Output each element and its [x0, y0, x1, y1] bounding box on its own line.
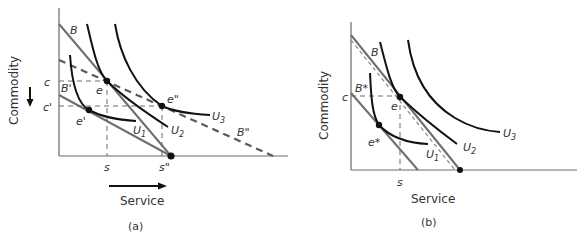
- panel-b-label-e-star: e*: [368, 136, 381, 149]
- panel-b-caption: (b): [421, 216, 437, 229]
- panel-a: B B' B" e e' e" U1 U2 U3 c c' s s" Commo…: [7, 8, 288, 233]
- panel-b-x-axis-title: Service: [411, 192, 455, 206]
- panel-a-caption: (a): [128, 220, 143, 233]
- panel-b-label-U1: U1: [426, 148, 439, 163]
- panel-b-label-U3: U3: [503, 127, 516, 142]
- panel-a-label-U3: U3: [212, 110, 225, 125]
- panel-b-tick-s: s: [397, 176, 403, 189]
- panel-a-label-e: e: [96, 84, 103, 97]
- panel-a-tick-c-prime: c': [43, 101, 52, 114]
- panel-a-point-intercept: [167, 152, 174, 159]
- diagram-canvas: B B' B" e e' e" U1 U2 U3 c c' s s" Commo…: [0, 0, 586, 246]
- panel-a-x-axis-title: Service: [120, 194, 164, 208]
- panel-a-right-arrow-icon: [109, 183, 167, 190]
- panel-a-indifference-curve-U2: [87, 24, 168, 127]
- panel-a-label-B-dprime: B": [237, 126, 250, 139]
- panel-b-y-axis-title: Commodity: [317, 71, 331, 140]
- panel-a-tick-c: c: [44, 76, 50, 89]
- panel-a-label-e-dprime: e": [167, 93, 179, 106]
- panel-b-label-U2: U2: [463, 141, 476, 156]
- panel-b-label-B-star: B*: [355, 82, 369, 95]
- panel-a-point-e-prime: [86, 107, 92, 113]
- panel-a-point-e: [104, 78, 110, 84]
- panel-b: B B* e e* U1 U2 U3 c s Commodity Service…: [317, 22, 577, 229]
- panel-a-indifference-curve-U3: [115, 24, 210, 115]
- panel-a-label-B-prime: B': [61, 82, 72, 95]
- panel-a-point-e-dprime: [159, 103, 165, 109]
- panel-b-indifference-curve-U3: [408, 40, 500, 132]
- panel-a-y-axis-title: Commodity: [7, 56, 21, 125]
- panel-a-label-U1: U1: [133, 124, 146, 139]
- panel-a-tick-s-dprime: s": [159, 161, 170, 174]
- panel-b-indifference-curve-U1: [370, 73, 428, 144]
- panel-a-label-U2: U2: [171, 124, 184, 139]
- panel-a-indifference-curve-U1: [70, 55, 136, 121]
- panel-b-label-B: B: [371, 46, 379, 59]
- panel-b-label-e: e: [391, 100, 398, 113]
- panel-a-tick-s: s: [104, 161, 110, 174]
- panel-b-point-intercept: [457, 167, 463, 173]
- panel-a-label-B: B: [70, 24, 78, 37]
- panel-b-tick-c: c: [342, 91, 348, 104]
- panel-a-label-e-prime: e': [76, 115, 86, 128]
- panel-a-down-arrow-icon: [27, 87, 34, 107]
- panel-b-indifference-curve-U2: [380, 42, 457, 144]
- panel-b-point-e-star: [376, 122, 382, 128]
